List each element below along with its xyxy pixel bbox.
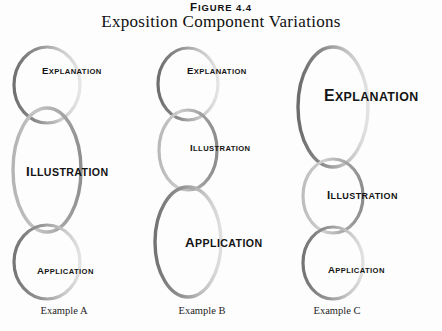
label-explanation-rest: XPLANATION xyxy=(194,67,247,76)
label-application-rest: PPLICATION xyxy=(44,267,93,276)
chain-column-example-c: EXPLANATION ILLUSTRATION APPLICATION Exa… xyxy=(296,0,442,331)
label-illustration-rest: LLUSTRATION xyxy=(30,166,108,178)
label-illustration: ILLUSTRATION xyxy=(327,190,398,201)
label-explanation-cap: E xyxy=(324,87,335,104)
caption-example-a: Example A xyxy=(0,305,128,316)
label-illustration: ILLUSTRATION xyxy=(26,165,108,178)
label-illustration-rest: LLUSTRATION xyxy=(193,144,250,153)
chain-column-example-a: EXPLANATION ILLUSTRATION APPLICATION Exa… xyxy=(0,0,148,331)
ring-application xyxy=(14,225,80,299)
exposition-diagram: EXPLANATION ILLUSTRATION APPLICATION Exa… xyxy=(0,0,442,331)
label-explanation-rest: XPLANATION xyxy=(335,90,419,104)
ring-application xyxy=(303,227,363,299)
label-explanation-cap: E xyxy=(187,65,194,76)
label-explanation-rest: XPLANATION xyxy=(49,67,102,76)
label-explanation: EXPLANATION xyxy=(324,88,419,104)
label-explanation-cap: E xyxy=(42,65,49,76)
label-illustration-rest: LLUSTRATION xyxy=(331,191,398,201)
caption-example-c: Example C xyxy=(296,305,378,316)
ring-explanation xyxy=(14,47,80,123)
chain-column-example-b: EXPLANATION ILLUSTRATION APPLICATION Exa… xyxy=(148,0,296,331)
caption-example-b: Example B xyxy=(148,305,256,316)
label-application: APPLICATION xyxy=(328,265,385,275)
ring-explanation xyxy=(298,47,368,167)
label-application-cap: A xyxy=(185,235,195,250)
label-application: APPLICATION xyxy=(37,266,94,276)
label-application-rest: PPLICATION xyxy=(195,237,262,249)
label-explanation: EXPLANATION xyxy=(187,66,247,76)
label-application: APPLICATION xyxy=(185,236,262,249)
chain-rings-example-b xyxy=(148,0,296,331)
label-illustration: ILLUSTRATION xyxy=(190,143,251,153)
figure-root: FIGURE 4.4 Exposition Component Variatio… xyxy=(0,0,442,331)
label-explanation: EXPLANATION xyxy=(42,66,102,76)
label-application-rest: PPLICATION xyxy=(335,266,384,275)
chain-rings-example-c xyxy=(296,0,442,331)
